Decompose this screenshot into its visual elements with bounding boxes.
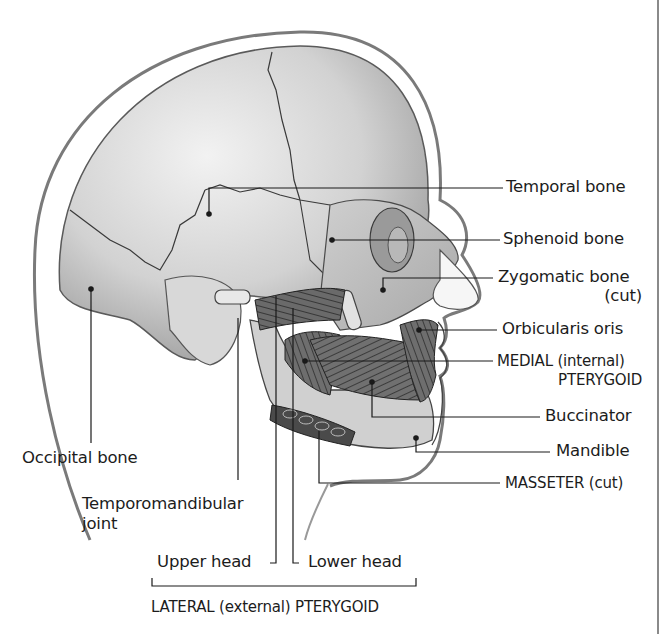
label-lateral-pterygoid: LATERAL (external) PTERYGOID <box>151 598 379 616</box>
label-upper-head: Upper head <box>157 553 251 571</box>
label-medial-pterygoid-line2: PTERYGOID <box>540 371 642 389</box>
label-temporal-bone: Temporal bone <box>506 178 625 196</box>
label-mandible: Mandible <box>556 442 629 460</box>
label-tmj-line1: Temporomandibular <box>82 495 243 513</box>
orbit-inner <box>388 227 408 263</box>
label-buccinator: Buccinator <box>545 407 631 425</box>
label-zygomatic-bone-note: (cut) <box>560 287 642 305</box>
anatomy-diagram: Temporal bone Sphenoid bone Zygomatic bo… <box>0 0 663 634</box>
label-medial-pterygoid-line1: MEDIAL (internal) <box>497 352 625 370</box>
zygomatic-arch-cut <box>215 290 250 304</box>
label-tmj-line2: joint <box>82 515 117 533</box>
neck-front <box>305 484 328 540</box>
label-lower-head: Lower head <box>308 553 402 571</box>
frame-border-line <box>657 0 659 634</box>
label-orbicularis-oris: Orbicularis oris <box>502 320 623 338</box>
head-illustration <box>0 0 663 634</box>
label-sphenoid-bone: Sphenoid bone <box>503 230 624 248</box>
label-masseter: MASSETER (cut) <box>505 474 623 492</box>
label-zygomatic-bone: Zygomatic bone <box>498 268 630 286</box>
label-occipital-bone: Occipital bone <box>22 449 138 467</box>
